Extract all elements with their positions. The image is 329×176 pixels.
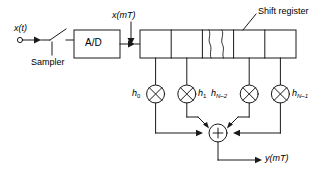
shift-register-outline (140, 30, 296, 58)
input-arrowhead-icon (34, 37, 41, 44)
coefficient-sub-h0: 0 (137, 93, 140, 99)
output-arrowhead-icon (255, 157, 262, 163)
multiplier-3 (271, 85, 289, 103)
coefficient-label-hN-2: hN–2 (211, 89, 227, 98)
output-signal-label: y(mT) (265, 154, 289, 163)
multiplier-1 (178, 85, 196, 103)
sampled-signal-label: x(mT) (112, 11, 136, 20)
multiplier-0 (147, 85, 165, 103)
coefficient-sub-h1: 1 (203, 93, 206, 99)
input-terminal-icon (17, 37, 22, 42)
input-signal-label: x(t) (14, 24, 27, 33)
sampler-label: Sampler (31, 58, 65, 67)
diagram-canvas: x(t) Sampler A/D x(mT) Shift register h0… (0, 0, 329, 176)
shift-register-label: Shift register (258, 7, 309, 16)
sampler-switch-blade (50, 29, 66, 40)
coefficient-sub-hN-2: N–2 (216, 93, 227, 99)
coefficient-sub-hN-1: N–1 (297, 93, 308, 99)
adc-label: A/D (85, 38, 102, 48)
coefficient-label-h0: h0 (132, 89, 140, 98)
summer-input-arrowhead-right-outer (233, 130, 240, 136)
summer-node (209, 124, 227, 142)
shift-register-label-leader (243, 14, 256, 30)
summer-input-arrowhead-left-outer (196, 130, 203, 136)
diagram-vector-layer (0, 0, 329, 176)
coefficient-label-h1: h1 (198, 89, 206, 98)
multiplier-2 (240, 85, 258, 103)
coefficient-label-hN-1: hN–1 (292, 89, 308, 98)
